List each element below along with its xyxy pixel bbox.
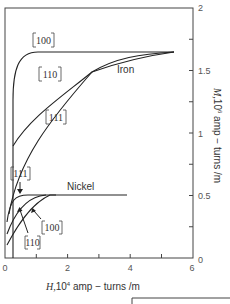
magnetization-chart: 0 2 4 6 0 0.5 1 1.5 2 H,104 amp − turns … <box>0 0 230 304</box>
x-axis-ticks <box>36 254 161 258</box>
svg-text:110: 110 <box>25 237 40 248</box>
svg-text:100: 100 <box>45 222 60 233</box>
svg-text:100: 100 <box>36 35 51 46</box>
svg-text:110: 110 <box>43 69 58 80</box>
curve-nickel-111 <box>7 195 127 222</box>
y-axis-ticks <box>189 39 193 227</box>
y-tick-1: 1 <box>198 129 203 139</box>
y-tick-0: 0 <box>198 255 203 265</box>
label-nickel-111: 111 <box>11 167 30 180</box>
x-tick-0: 0 <box>2 263 7 273</box>
curve-iron-100 <box>13 52 174 258</box>
y-axis-title: M,106 amp − turns /m <box>212 87 223 183</box>
label-iron: Iron <box>117 64 134 75</box>
x-tick-2: 2 <box>65 263 70 273</box>
label-nickel-100: 100 <box>42 221 62 234</box>
x-axis-title: H,104 amp − turns /m <box>45 281 140 292</box>
partial-frame-fragment <box>132 298 230 304</box>
label-iron-100: 100 <box>33 33 54 47</box>
x-tick-6: 6 <box>189 263 194 273</box>
label-iron-111: 111 <box>46 110 66 124</box>
label-iron-110: 110 <box>39 67 61 81</box>
label-nickel: Nickel <box>67 181 94 192</box>
svg-text:111: 111 <box>49 112 63 123</box>
y-tick-1.5: 1.5 <box>198 66 211 76</box>
svg-text:111: 111 <box>13 168 27 179</box>
x-tick-4: 4 <box>128 263 133 273</box>
label-nickel-110: 110 <box>25 236 40 249</box>
y-tick-0.5: 0.5 <box>198 191 211 201</box>
curve-iron-110 <box>13 52 174 146</box>
arrow-nickel-100 <box>31 208 41 219</box>
y-tick-2: 2 <box>198 3 203 13</box>
arrow-nickel-111 <box>17 182 23 194</box>
